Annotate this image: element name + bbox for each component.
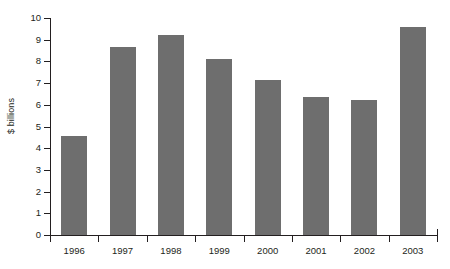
y-axis-tick-label: 4 (16, 143, 41, 153)
y-axis-tick-label: 0 (16, 230, 41, 240)
x-axis-tick-label: 1999 (195, 246, 243, 256)
x-axis-tick (292, 236, 293, 242)
x-axis-tick (147, 236, 148, 242)
bar (255, 80, 281, 235)
y-axis-tick-label: 8 (16, 56, 41, 66)
y-axis-title-label: $ billions (6, 98, 16, 134)
bar (351, 100, 377, 235)
x-axis-tick (98, 236, 99, 242)
y-axis-tick-label: 5 (16, 122, 41, 132)
x-axis-tick-label: 2000 (244, 246, 292, 256)
bar (400, 27, 426, 235)
x-axis-tick (437, 236, 438, 242)
x-axis-tick-label: 2002 (340, 246, 388, 256)
y-axis-tick-label: 9 (16, 35, 41, 45)
y-axis-tick-label: 7 (16, 78, 41, 88)
bar (303, 97, 329, 235)
x-axis-tick (340, 236, 341, 242)
bar (206, 59, 232, 235)
x-axis-tick (389, 236, 390, 242)
x-axis-tick-label: 1998 (147, 246, 195, 256)
x-axis-tick-label: 1997 (99, 246, 147, 256)
y-axis-tick-label: 10 (16, 13, 41, 23)
bar (61, 136, 87, 235)
x-axis-tick (195, 236, 196, 242)
x-axis-tick-label: 2001 (292, 246, 340, 256)
x-axis-tick (50, 236, 51, 242)
y-axis-tick-label: 2 (16, 187, 41, 197)
x-axis-tick (244, 236, 245, 242)
x-axis-tick-label: 1996 (50, 246, 98, 256)
y-axis-tick-label: 3 (16, 165, 41, 175)
y-axis-tick-label: 6 (16, 100, 41, 110)
bars-layer (50, 18, 438, 235)
bar (158, 35, 184, 235)
x-axis-tick-label: 2003 (389, 246, 437, 256)
y-axis-tick-label: 1 (16, 208, 41, 218)
bar-chart-figure: $ billions 012345678910 1996199719981999… (0, 0, 450, 269)
bar (110, 47, 136, 235)
